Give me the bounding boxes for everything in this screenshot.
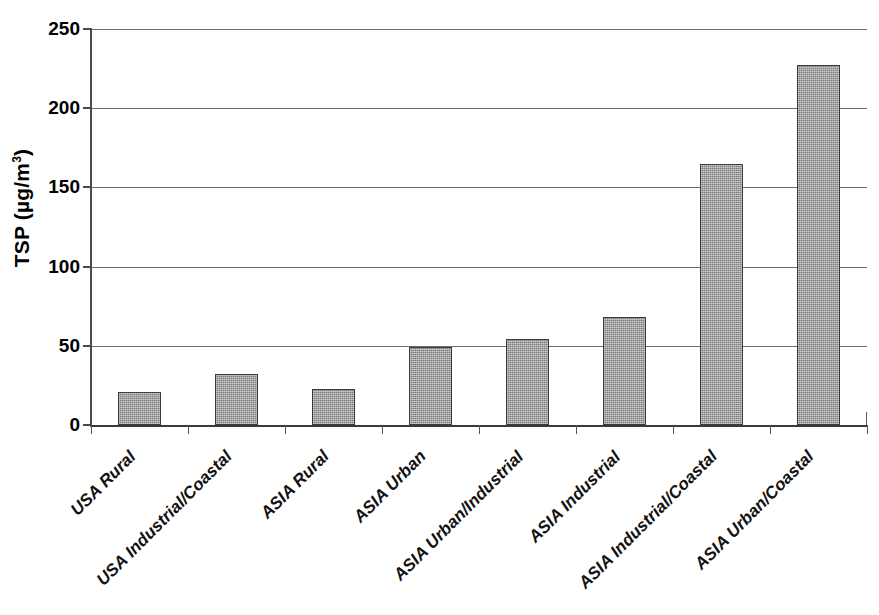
bar	[603, 317, 646, 425]
x-axis-category-label: ASIA Urban	[350, 447, 430, 527]
y-axis-tick-mark	[83, 266, 92, 268]
bar-chart: TSP (µg/m3) 050100150200250 USA RuralUSA…	[0, 0, 879, 615]
x-axis-tick-mark	[867, 425, 868, 434]
y-axis-tick-label: 50	[28, 335, 80, 357]
y-axis-tick-label: 100	[28, 256, 80, 278]
x-axis-tick-mark	[285, 425, 286, 434]
x-axis-category-label: ASIA Industrial	[525, 447, 625, 547]
bar	[215, 374, 258, 425]
y-axis-tick-labels: 050100150200250	[28, 0, 80, 615]
bar	[700, 164, 743, 425]
y-axis-tick-mark	[83, 186, 92, 188]
bar	[506, 339, 549, 425]
x-axis-tick-mark	[770, 425, 771, 434]
y-axis-title-superscript: 3	[10, 156, 24, 163]
gridline	[91, 187, 867, 188]
y-axis-tick-label: 250	[28, 18, 80, 40]
x-axis-tick-mark	[673, 425, 674, 434]
x-axis-tick-mark	[576, 425, 577, 434]
y-axis-tick-label: 0	[28, 414, 80, 436]
gridline	[91, 267, 867, 268]
y-axis-tick-mark	[83, 107, 92, 109]
bar	[312, 389, 355, 425]
x-axis-tick-mark	[91, 425, 92, 434]
x-axis-category-label: ASIA Rural	[257, 447, 333, 523]
x-axis-tick-mark	[382, 425, 383, 434]
bar	[118, 392, 161, 425]
y-axis-tick-mark	[83, 28, 92, 30]
gridline	[91, 29, 867, 30]
x-axis-tick-mark	[188, 425, 189, 434]
y-axis-tick-label: 200	[28, 97, 80, 119]
x-axis-tick-mark	[479, 425, 480, 434]
gridline	[91, 346, 867, 347]
y-axis-tick-label: 150	[28, 176, 80, 198]
plot-area	[91, 29, 867, 425]
y-axis-tick-mark	[83, 345, 92, 347]
bar	[797, 65, 840, 425]
gridline	[91, 108, 867, 109]
bar	[409, 347, 452, 425]
